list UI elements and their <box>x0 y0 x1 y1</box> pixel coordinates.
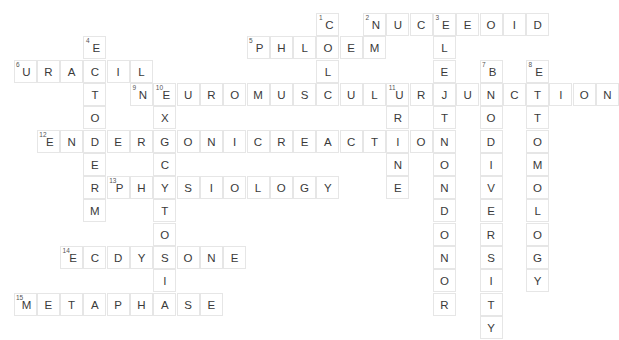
crossword-cell[interactable]: Y <box>153 176 176 199</box>
crossword-cell[interactable]: N <box>60 130 83 153</box>
crossword-cell[interactable]: M <box>526 153 549 176</box>
crossword-cell[interactable]: E <box>433 60 456 83</box>
crossword-cell[interactable]: I <box>107 60 130 83</box>
crossword-cell[interactable]: U <box>340 83 363 106</box>
crossword-cell[interactable]: N <box>596 83 619 106</box>
crossword-cell[interactable]: O <box>270 176 293 199</box>
crossword-cell[interactable]: R <box>37 60 60 83</box>
crossword-cell[interactable]: O <box>223 83 246 106</box>
crossword-cell[interactable]: 3E <box>433 13 456 36</box>
crossword-cell[interactable]: C <box>410 13 433 36</box>
crossword-cell[interactable]: N <box>200 246 223 269</box>
crossword-cell[interactable]: S <box>177 293 200 316</box>
crossword-cell[interactable]: 9N <box>130 83 153 106</box>
crossword-cell[interactable]: O <box>410 130 433 153</box>
crossword-cell[interactable]: H <box>130 293 153 316</box>
crossword-cell[interactable]: U <box>270 83 293 106</box>
crossword-cell[interactable]: R <box>410 83 433 106</box>
crossword-cell[interactable]: M <box>363 36 386 59</box>
crossword-cell[interactable]: E <box>200 293 223 316</box>
crossword-cell[interactable]: N <box>433 176 456 199</box>
crossword-cell[interactable]: R <box>270 130 293 153</box>
crossword-cell[interactable]: I <box>480 269 503 292</box>
crossword-cell[interactable]: A <box>83 293 106 316</box>
crossword-cell[interactable]: S <box>480 246 503 269</box>
crossword-cell[interactable]: E <box>340 36 363 59</box>
crossword-cell[interactable]: J <box>433 83 456 106</box>
crossword-cell[interactable]: U <box>386 13 409 36</box>
crossword-cell[interactable]: N <box>480 83 503 106</box>
crossword-cell[interactable]: E <box>386 176 409 199</box>
crossword-cell[interactable]: E <box>37 293 60 316</box>
crossword-cell[interactable]: O <box>526 176 549 199</box>
crossword-cell[interactable]: T <box>363 130 386 153</box>
crossword-cell[interactable]: N <box>433 130 456 153</box>
crossword-cell[interactable]: I <box>549 83 572 106</box>
crossword-cell[interactable]: N <box>433 246 456 269</box>
crossword-cell[interactable]: O <box>153 223 176 246</box>
crossword-cell[interactable]: T <box>83 83 106 106</box>
crossword-cell[interactable]: N <box>386 153 409 176</box>
crossword-cell[interactable]: S <box>177 176 200 199</box>
crossword-cell[interactable]: O <box>573 83 596 106</box>
crossword-cell[interactable]: T <box>480 293 503 316</box>
crossword-cell[interactable]: M <box>83 199 106 222</box>
crossword-cell[interactable]: O <box>526 130 549 153</box>
crossword-cell[interactable]: E <box>293 130 316 153</box>
crossword-cell[interactable]: I <box>153 269 176 292</box>
crossword-cell[interactable]: C <box>340 130 363 153</box>
crossword-cell[interactable]: L <box>316 60 339 83</box>
crossword-cell[interactable]: E <box>223 246 246 269</box>
crossword-cell[interactable]: R <box>433 293 456 316</box>
crossword-cell[interactable]: O <box>526 223 549 246</box>
crossword-cell[interactable]: O <box>83 106 106 129</box>
crossword-cell[interactable]: O <box>433 223 456 246</box>
crossword-cell[interactable]: 4E <box>83 36 106 59</box>
crossword-cell[interactable]: Y <box>526 269 549 292</box>
crossword-cell[interactable]: O <box>177 130 200 153</box>
crossword-cell[interactable]: H <box>270 36 293 59</box>
crossword-cell[interactable]: 1C <box>316 13 339 36</box>
crossword-cell[interactable]: 13P <box>107 176 130 199</box>
crossword-cell[interactable]: 7B <box>480 60 503 83</box>
crossword-cell[interactable]: A <box>60 60 83 83</box>
crossword-cell[interactable]: E <box>107 130 130 153</box>
crossword-cell[interactable]: 15M <box>14 293 37 316</box>
crossword-cell[interactable]: I <box>386 130 409 153</box>
crossword-cell[interactable]: R <box>130 130 153 153</box>
crossword-cell[interactable]: O <box>480 106 503 129</box>
crossword-cell[interactable]: 12E <box>37 130 60 153</box>
crossword-cell[interactable]: C <box>247 130 270 153</box>
crossword-cell[interactable]: R <box>386 106 409 129</box>
crossword-cell[interactable]: C <box>503 83 526 106</box>
crossword-cell[interactable]: C <box>316 83 339 106</box>
crossword-cell[interactable]: 14E <box>60 246 83 269</box>
crossword-cell[interactable]: L <box>247 176 270 199</box>
crossword-cell[interactable]: O <box>177 246 200 269</box>
crossword-cell[interactable]: I <box>200 176 223 199</box>
crossword-cell[interactable]: G <box>153 130 176 153</box>
crossword-cell[interactable]: A <box>153 293 176 316</box>
crossword-cell[interactable]: L <box>433 36 456 59</box>
crossword-cell[interactable]: 5P <box>247 36 270 59</box>
crossword-cell[interactable]: S <box>153 246 176 269</box>
crossword-cell[interactable]: U <box>456 83 479 106</box>
crossword-cell[interactable]: C <box>83 60 106 83</box>
crossword-cell[interactable]: G <box>526 246 549 269</box>
crossword-cell[interactable]: A <box>316 130 339 153</box>
crossword-cell[interactable]: C <box>153 153 176 176</box>
crossword-cell[interactable]: T <box>526 83 549 106</box>
crossword-cell[interactable]: 6U <box>14 60 37 83</box>
crossword-cell[interactable]: O <box>480 13 503 36</box>
crossword-cell[interactable]: 2N <box>363 13 386 36</box>
crossword-cell[interactable]: O <box>223 176 246 199</box>
crossword-cell[interactable]: 10E <box>153 83 176 106</box>
crossword-cell[interactable]: Y <box>480 316 503 339</box>
crossword-cell[interactable]: L <box>363 83 386 106</box>
crossword-cell[interactable]: 11U <box>386 83 409 106</box>
crossword-cell[interactable]: T <box>526 106 549 129</box>
crossword-cell[interactable]: L <box>293 36 316 59</box>
crossword-cell[interactable]: C <box>83 246 106 269</box>
crossword-cell[interactable]: R <box>83 176 106 199</box>
crossword-cell[interactable]: O <box>433 269 456 292</box>
